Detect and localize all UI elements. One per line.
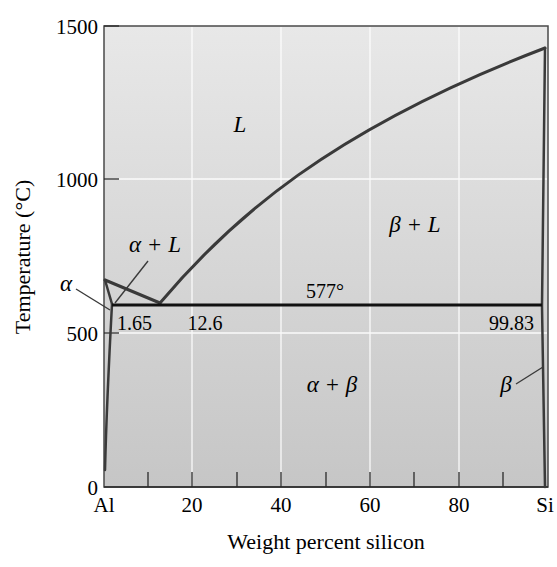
- y-tick-500: 500: [67, 322, 99, 346]
- x-tick-80: 80: [449, 493, 470, 517]
- x-axis-title: Weight percent silicon: [227, 529, 424, 554]
- y-axis-title: Temperature (°C): [10, 180, 35, 334]
- eutectic-temperature-label: 577°: [306, 280, 344, 302]
- phase-diagram-chart: 1500 1000 500 0 Al 20 40 60 80 Si Weight…: [0, 0, 557, 567]
- x-tick-60: 60: [360, 493, 381, 517]
- region-label-alpha-beta: α + β: [307, 372, 358, 397]
- x-tick-al: Al: [94, 493, 115, 517]
- y-tick-1000: 1000: [56, 168, 98, 192]
- region-label-beta: β: [499, 372, 512, 397]
- beta-solubility-label: 99.83: [489, 312, 534, 334]
- region-label-alpha-liquid: α + L: [129, 232, 181, 257]
- x-tick-40: 40: [271, 493, 292, 517]
- eutectic-composition-label: 12.6: [188, 312, 223, 334]
- region-label-alpha: α: [60, 271, 73, 296]
- region-label-liquid: L: [233, 112, 247, 137]
- y-tick-1500: 1500: [56, 15, 98, 39]
- alpha-solubility-label: 1.65: [117, 312, 152, 334]
- x-tick-si: Si: [536, 493, 554, 517]
- x-tick-20: 20: [182, 493, 203, 517]
- region-label-beta-liquid: β + L: [388, 212, 440, 237]
